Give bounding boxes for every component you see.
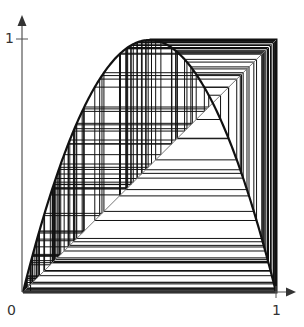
origin-label: 0: [7, 302, 16, 318]
y-axis-label-1: 1: [5, 30, 14, 46]
cobweb-diagram: [0, 0, 304, 327]
x-axis-arrow-icon: [286, 288, 296, 297]
y-axis-arrow-icon: [18, 15, 27, 26]
x-axis-label-1: 1: [272, 302, 281, 318]
